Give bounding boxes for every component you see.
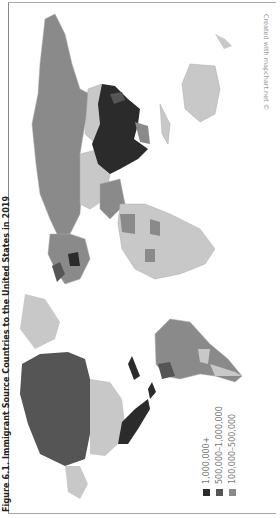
region-united-states bbox=[90, 379, 125, 456]
region-greenland bbox=[20, 294, 60, 349]
legend-label: 500,000–1,000,000 bbox=[215, 406, 224, 484]
legend-swatch bbox=[216, 489, 223, 496]
region-nigeria bbox=[145, 249, 155, 262]
region-alaska bbox=[65, 466, 88, 499]
region-germany bbox=[68, 252, 80, 266]
region-southeast-asia bbox=[135, 122, 150, 144]
legend-item-1m-plus: 1,000,000+ bbox=[200, 406, 212, 496]
region-cuba bbox=[128, 356, 140, 380]
legend-item-100k-500k: 100,000–500,000 bbox=[226, 406, 238, 496]
legend-swatch bbox=[229, 489, 236, 496]
legend-label: 1,000,000+ bbox=[202, 437, 211, 484]
region-canada bbox=[20, 352, 92, 466]
region-central-america bbox=[148, 382, 156, 399]
legend-swatch bbox=[203, 489, 210, 496]
legend-label: 100,000–500,000 bbox=[228, 414, 237, 484]
region-australia bbox=[182, 64, 220, 122]
region-ethiopia bbox=[150, 219, 160, 236]
region-egypt bbox=[120, 214, 135, 234]
region-indonesia bbox=[160, 104, 170, 144]
legend-item-500k-1m: 500,000–1,000,000 bbox=[213, 406, 225, 496]
region-new-zealand bbox=[215, 34, 232, 49]
map-legend: 1,000,000+ 500,000–1,000,000 100,000–500… bbox=[200, 406, 239, 496]
